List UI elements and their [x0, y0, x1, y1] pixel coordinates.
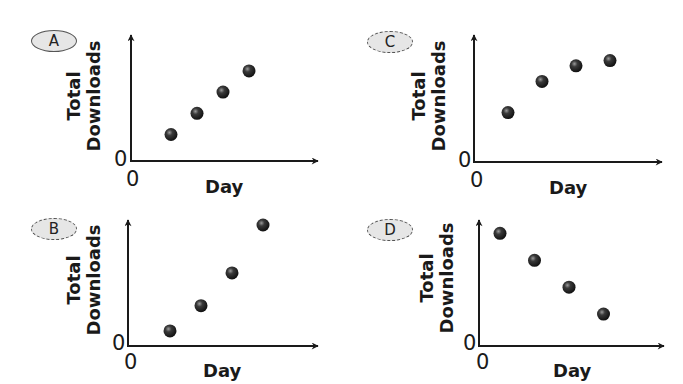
- plots-layer: [0, 0, 683, 384]
- scatter-plot-a: [130, 35, 318, 162]
- data-point: [257, 219, 270, 232]
- data-point: [570, 59, 583, 72]
- data-point: [164, 324, 177, 337]
- data-point: [217, 86, 230, 99]
- data-point: [502, 106, 515, 119]
- data-point: [604, 54, 617, 67]
- data-point: [597, 308, 610, 321]
- data-point: [528, 254, 541, 267]
- data-point: [494, 227, 507, 240]
- scatter-plot-c: [473, 35, 662, 163]
- data-point: [165, 128, 178, 141]
- data-point: [191, 107, 204, 120]
- scatter-plot-b: [127, 219, 318, 348]
- data-point: [195, 299, 208, 312]
- scatter-plot-d: [478, 220, 664, 347]
- data-point: [563, 281, 576, 294]
- data-point: [226, 266, 239, 279]
- data-point: [243, 64, 256, 77]
- data-point: [536, 75, 549, 88]
